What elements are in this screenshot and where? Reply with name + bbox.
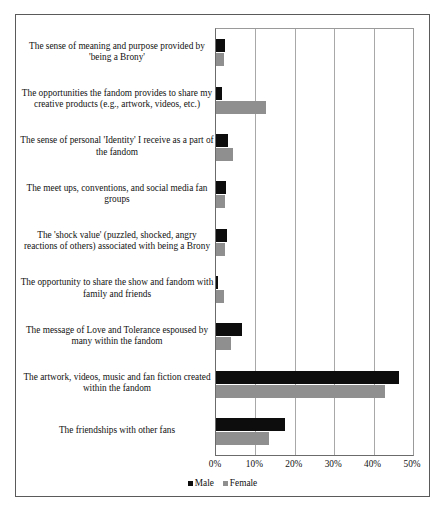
bar-group [216,371,413,398]
plot-area [215,28,414,456]
category-label: The 'shock value' (puzzled, shocked, ang… [20,230,214,252]
bar-male [216,371,399,384]
bar-group [216,134,413,161]
bar-group [216,87,413,114]
bar-male [216,229,227,242]
bar-male [216,39,225,52]
bar-group [216,276,413,303]
chart-legend: MaleFemale [16,477,429,489]
bar-male [216,323,242,336]
bar-group [216,39,413,66]
category-label: The meet ups, conventions, and social me… [20,183,214,205]
category-label: The artwork, videos, music and fan ficti… [20,372,214,394]
category-label: The sense of personal 'Identity' I recei… [20,135,214,157]
bar-female [216,101,266,114]
bar-group [216,181,413,208]
bar-female [216,53,224,66]
bar-male [216,181,226,194]
legend-label: Male [195,477,214,489]
bar-female [216,337,231,350]
x-tick-label: 30% [325,458,342,470]
chart-plot-wrapper: The sense of meaning and purpose provide… [16,15,429,496]
x-tick-label: 0% [209,458,221,470]
bar-group [216,418,413,445]
bar-female [216,243,225,256]
bar-male [216,418,285,431]
bar-group [216,323,413,350]
x-tick-label: 10% [246,458,263,470]
category-label: The opportunity to share the show and fa… [20,277,214,299]
bar-female [216,195,225,208]
bar-female [216,432,269,445]
bar-male [216,276,218,289]
legend-item-female[interactable]: Female [223,477,257,489]
bar-male [216,134,228,147]
legend-label: Female [230,477,257,489]
category-label: The sense of meaning and purpose provide… [20,41,214,63]
x-axis-tick-labels: 0%10%20%30%40%50% [215,458,412,472]
category-label: The friendships with other fans [20,425,214,436]
legend-swatch-icon [188,481,193,486]
x-tick-label: 40% [364,458,381,470]
legend-item-male[interactable]: Male [188,477,214,489]
category-axis-labels: The sense of meaning and purpose provide… [20,28,214,454]
category-label: The opportunities the fandom provides to… [20,88,214,110]
legend-swatch-icon [223,481,228,486]
x-tick-label: 20% [285,458,302,470]
bar-female [216,148,233,161]
category-label: The message of Love and Tolerance espous… [20,325,214,347]
chart-figure: The sense of meaning and purpose provide… [15,14,430,497]
bar-female [216,290,224,303]
bar-female [216,385,385,398]
bar-male [216,87,222,100]
bar-group [216,229,413,256]
x-tick-label: 50% [403,458,420,470]
